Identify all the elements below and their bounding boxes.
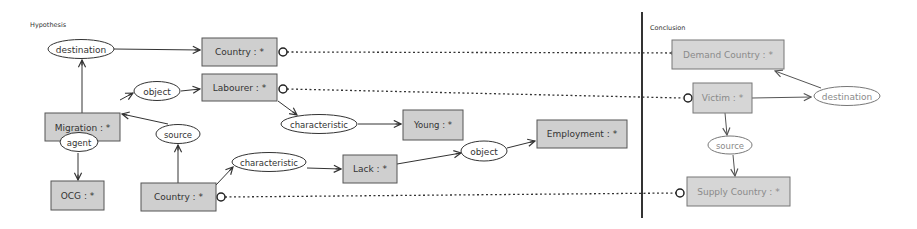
svg-text:destination: destination	[822, 92, 872, 102]
concept-victim[interactable]: Victim : *	[693, 83, 752, 113]
svg-text:source: source	[716, 141, 744, 151]
edge-object-labourer	[181, 89, 200, 91]
concept-country-bottom[interactable]: Country : *	[141, 183, 216, 211]
edge-destination-country	[114, 49, 200, 50]
relation-source[interactable]: source	[156, 125, 200, 144]
edge-lack-object	[397, 153, 461, 164]
relation-characteristic-upper[interactable]: characteristic	[281, 115, 357, 134]
svg-text:Migration : *: Migration : *	[55, 123, 111, 133]
coref-anchor-labourer	[279, 85, 287, 93]
svg-text:Lack : *: Lack : *	[353, 164, 387, 174]
svg-text:destination: destination	[56, 45, 106, 55]
edge-labourer-characteristic	[278, 101, 297, 115]
svg-text:characteristic: characteristic	[240, 158, 298, 168]
relation-destination-conclusion[interactable]: destination	[814, 87, 880, 106]
concept-young[interactable]: Young : *	[403, 110, 463, 140]
svg-text:Victim : *: Victim : *	[702, 93, 744, 103]
svg-text:Demand Country : *: Demand Country : *	[683, 50, 774, 60]
conclusion-label: Conclusion	[650, 24, 685, 32]
relation-agent[interactable]: agent	[60, 133, 98, 152]
svg-text:agent: agent	[67, 138, 92, 148]
edge-victim-source	[725, 113, 727, 135]
svg-text:object: object	[470, 147, 498, 157]
edge-source-supply-country	[733, 155, 735, 176]
coref-anchor-victim	[684, 94, 692, 102]
coref-anchor-country	[279, 48, 287, 56]
concept-demand-country[interactable]: Demand Country : *	[672, 40, 784, 69]
concept-lack[interactable]: Lack : *	[343, 155, 397, 183]
edge-country-characteristic	[216, 167, 233, 185]
svg-text:Employment : *: Employment : *	[547, 129, 618, 139]
coref-country-demand-country	[287, 52, 675, 53]
edge-characteristic-lack	[307, 168, 341, 169]
svg-text:Labourer : *: Labourer : *	[213, 83, 267, 93]
coref-country-supply-country	[225, 193, 676, 197]
coref-anchor-country-bottom	[217, 193, 225, 201]
coref-labourer-victim	[287, 89, 683, 98]
hypothesis-label: Hypothesis	[30, 21, 67, 29]
edge-source-migration	[122, 114, 168, 124]
concept-supply-country[interactable]: Supply Country : *	[687, 177, 790, 206]
svg-text:source: source	[164, 130, 192, 140]
concept-ocg[interactable]: OCG : *	[51, 181, 104, 210]
relation-characteristic-lower[interactable]: characteristic	[232, 153, 306, 172]
relation-object-upper[interactable]: object	[134, 82, 180, 101]
edge-victim-destination	[752, 97, 811, 98]
edge-object-employment	[507, 141, 535, 148]
relation-source-conclusion[interactable]: source	[708, 136, 752, 154]
svg-text:Supply Country : *: Supply Country : *	[697, 187, 780, 197]
edge-migration-object	[120, 93, 133, 100]
svg-text:OCG : *: OCG : *	[61, 191, 95, 201]
edge-destination-demand-country	[775, 71, 821, 88]
svg-text:Young : *: Young : *	[413, 120, 452, 130]
concept-employment[interactable]: Employment : *	[537, 120, 627, 148]
conceptual-graph-diagram: Hypothesis Conclusion Country : * Labour…	[0, 0, 917, 229]
concept-country-top[interactable]: Country : *	[202, 38, 277, 66]
coref-anchor-supply-country	[676, 189, 684, 197]
svg-text:Country : *: Country : *	[215, 47, 265, 57]
relation-object-lower[interactable]: object	[461, 141, 507, 161]
concept-labourer[interactable]: Labourer : *	[202, 74, 277, 101]
svg-text:characteristic: characteristic	[290, 120, 348, 130]
svg-text:Country : *: Country : *	[154, 192, 204, 202]
relation-destination[interactable]: destination	[48, 40, 114, 59]
svg-text:object: object	[143, 87, 171, 97]
